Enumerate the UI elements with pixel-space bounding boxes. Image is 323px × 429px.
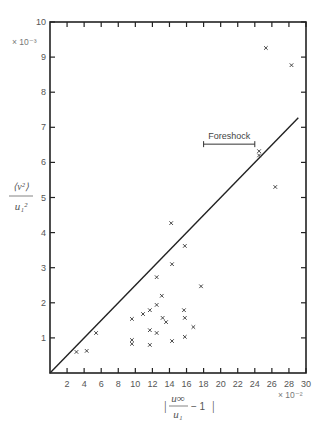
data-point-x-marker <box>85 349 89 353</box>
data-point-x-marker <box>141 312 145 316</box>
y-tick-label: 5 <box>41 193 46 203</box>
data-point-x-marker <box>182 308 186 312</box>
data-point-x-marker <box>170 339 174 343</box>
x-tick-label: 10 <box>130 379 140 389</box>
data-point-x-marker <box>264 46 268 50</box>
data-point-x-marker <box>75 350 79 354</box>
data-point-x-marker <box>155 331 159 335</box>
data-point-x-marker <box>148 328 152 332</box>
svg-text:|: | <box>212 398 215 413</box>
data-point-x-marker <box>290 63 294 67</box>
data-point-x-marker <box>257 149 261 153</box>
x-tick-label: 12 <box>147 379 157 389</box>
y-tick-label: 4 <box>41 228 46 238</box>
x-tick-label: 6 <box>99 379 104 389</box>
y-tick-label: 9 <box>41 52 46 62</box>
foreshock-annotation: Foreshock <box>204 131 255 147</box>
svg-text:u₁: u₁ <box>173 408 183 420</box>
y-tick-label: 7 <box>41 122 46 132</box>
x-tick-label: 8 <box>116 379 121 389</box>
x-axis-label: | u∞ u₁ − 1 | <box>164 392 215 420</box>
data-point-x-marker <box>130 342 134 346</box>
x-tick-label: 18 <box>199 379 209 389</box>
data-point-x-marker <box>183 244 187 248</box>
data-point-x-marker <box>170 262 174 266</box>
data-point-x-marker <box>94 331 98 335</box>
data-point-x-marker <box>183 335 187 339</box>
data-point-x-marker <box>199 285 203 289</box>
y-tick-label: 2 <box>41 298 46 308</box>
data-point-x-marker <box>155 275 159 279</box>
x-tick-label: 4 <box>82 379 87 389</box>
x-tick-label: 22 <box>233 379 243 389</box>
data-point-x-marker <box>164 320 168 324</box>
y-axis-ticks: 12345678910 <box>36 17 306 343</box>
x-multiplier: × 10⁻² <box>278 390 303 400</box>
data-point-x-marker <box>273 185 277 189</box>
data-point-x-marker <box>155 303 159 307</box>
x-tick-label: 30 <box>301 379 311 389</box>
svg-text:− 1: − 1 <box>191 401 206 412</box>
x-tick-label: 14 <box>164 379 174 389</box>
y-tick-label: 8 <box>41 87 46 97</box>
data-point-x-marker <box>160 294 164 298</box>
data-point-x-marker <box>169 221 173 225</box>
svg-text:⟨v²⟩: ⟨v²⟩ <box>13 181 28 192</box>
svg-text:|: | <box>164 398 167 413</box>
data-point-x-marker <box>257 154 261 158</box>
svg-text:u₁²: u₁² <box>15 200 28 212</box>
y-tick-label: 1 <box>41 333 46 343</box>
data-points <box>75 46 294 354</box>
svg-text:u∞: u∞ <box>171 392 185 404</box>
x-tick-label: 24 <box>250 379 260 389</box>
x-tick-label: 2 <box>65 379 70 389</box>
fit-line <box>50 118 298 373</box>
x-tick-label: 26 <box>267 379 277 389</box>
data-point-x-marker <box>148 308 152 312</box>
foreshock-label: Foreshock <box>208 131 251 141</box>
x-tick-label: 20 <box>216 379 226 389</box>
data-point-x-marker <box>161 316 165 320</box>
y-multiplier: × 10⁻³ <box>12 37 37 47</box>
plot-frame <box>50 22 306 373</box>
y-tick-label: 3 <box>41 263 46 273</box>
y-tick-label: 10 <box>36 17 46 27</box>
y-tick-label: 6 <box>41 157 46 167</box>
data-point-x-marker <box>192 325 196 329</box>
x-axis-ticks: 24681012141618202224262830 <box>65 22 311 389</box>
data-point-x-marker <box>130 317 134 321</box>
scatter-chart: 24681012141618202224262830 12345678910 F… <box>0 0 323 429</box>
data-point-x-marker <box>148 343 152 347</box>
data-point-x-marker <box>183 316 187 320</box>
x-tick-label: 16 <box>182 379 192 389</box>
y-axis-label: ⟨v²⟩ u₁² <box>9 181 33 212</box>
x-tick-label: 28 <box>284 379 294 389</box>
data-point-x-marker <box>130 338 134 342</box>
